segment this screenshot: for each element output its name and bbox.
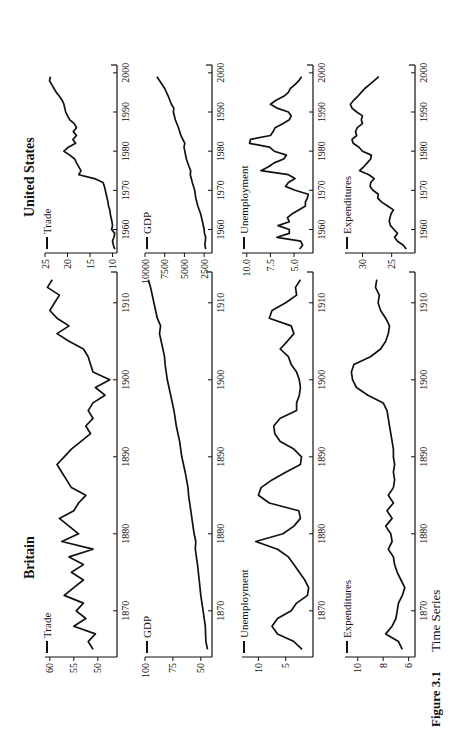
legend-label: Trade — [41, 613, 53, 638]
x-tick-label: 1910 — [418, 293, 429, 313]
series-line — [50, 77, 115, 249]
x-tick-label: 1880 — [418, 524, 429, 544]
x-tick-label: 1990 — [215, 102, 226, 122]
legend-label: Unemployment — [238, 166, 250, 234]
series-line — [256, 280, 309, 650]
y-tick-label: 5000 — [179, 259, 190, 279]
x-tick-label: 1980 — [316, 141, 327, 161]
x-tick-label: 1960 — [120, 220, 131, 240]
series-line — [157, 77, 206, 249]
y-tick-label: 2500 — [199, 259, 210, 279]
y-tick-label: 10.0 — [241, 259, 252, 277]
x-tick-label: 1900 — [418, 370, 429, 390]
series-line — [351, 280, 404, 650]
y-tick-label: 100 — [140, 663, 151, 678]
x-tick-label: 1870 — [316, 601, 327, 621]
x-tick-label: 1890 — [418, 447, 429, 467]
y-tick-label: 10 — [107, 259, 118, 269]
figure-caption: Figure 3.1 Time Series — [428, 590, 444, 727]
x-tick-label: 1870 — [120, 601, 131, 621]
series-line — [148, 280, 207, 650]
x-tick-label: 1980 — [418, 141, 429, 161]
x-tick-label: 1910 — [215, 293, 226, 313]
x-tick-label: 1970 — [316, 180, 327, 200]
x-tick-label: 1880 — [316, 524, 327, 544]
legend-label: GDP — [141, 212, 153, 234]
x-tick-label: 1990 — [120, 102, 131, 122]
panel-united-states-gdp: 1960197019801990200025005000750010000GDP — [140, 63, 227, 284]
x-tick-label: 2000 — [215, 63, 226, 83]
y-tick-label: 30 — [357, 259, 368, 269]
y-tick-label: 5.0 — [289, 259, 300, 272]
x-tick-label: 1960 — [418, 220, 429, 240]
y-tick-label: 7500 — [159, 259, 170, 279]
series-line — [250, 77, 309, 249]
y-tick-label: 10 — [352, 663, 363, 673]
y-tick-label: 50 — [92, 663, 103, 673]
x-tick-label: 1900 — [120, 370, 131, 390]
rotated-book-page: Britain United States 187018801890190019… — [0, 0, 466, 747]
series-line — [350, 77, 406, 249]
y-tick-label: 5 — [280, 663, 291, 668]
y-tick-label: 6 — [403, 663, 414, 668]
x-tick-label: 1880 — [120, 524, 131, 544]
y-tick-label: 10 — [253, 663, 264, 673]
panel-united-states-unemployment: 196019701980199020005.07.510.0Unemployme… — [238, 63, 327, 277]
legend-label: Unemployment — [238, 570, 250, 638]
x-tick-label: 2000 — [120, 63, 131, 83]
x-tick-label: 1970 — [215, 180, 226, 200]
x-tick-label: 1890 — [120, 447, 131, 467]
y-tick-label: 15 — [85, 259, 96, 269]
x-tick-label: 1880 — [215, 524, 226, 544]
panel-britain-gdp: 187018801890190019105075100GDP — [140, 272, 227, 678]
x-tick-label: 1980 — [215, 141, 226, 161]
panel-united-states-expenditures: 196019701980199020002530Expenditures — [341, 63, 429, 269]
series-line — [47, 280, 109, 650]
x-tick-label: 1890 — [215, 447, 226, 467]
x-tick-label: 2000 — [418, 63, 429, 83]
y-tick-label: 50 — [195, 663, 206, 673]
x-tick-label: 1910 — [120, 293, 131, 313]
y-tick-label: 20 — [62, 259, 73, 269]
x-tick-label: 1890 — [316, 447, 327, 467]
y-tick-label: 10000 — [140, 259, 151, 284]
legend-label: Trade — [41, 209, 53, 234]
y-tick-label: 25 — [386, 259, 397, 269]
y-tick-label: 7.5 — [265, 259, 276, 272]
legend-label: GDP — [141, 616, 153, 638]
x-tick-label: 2000 — [316, 63, 327, 83]
x-tick-label: 1900 — [316, 370, 327, 390]
panel-united-states-trade: 1960197019801990200010152025Trade — [40, 63, 132, 269]
y-tick-label: 60 — [44, 663, 55, 673]
y-tick-label: 75 — [167, 663, 178, 673]
panel-britain-unemployment: 18701880189019001910510Unemployment — [238, 272, 327, 673]
time-series-panels: 18701880189019001910505560Trade196019701… — [0, 0, 466, 747]
x-tick-label: 1990 — [316, 102, 327, 122]
legend-label: Expenditures — [341, 176, 353, 234]
x-tick-label: 1960 — [316, 220, 327, 240]
panel-britain-trade: 18701880189019001910505560Trade — [41, 272, 131, 673]
x-tick-label: 1980 — [120, 141, 131, 161]
y-tick-label: 25 — [40, 259, 51, 269]
x-tick-label: 1960 — [215, 220, 226, 240]
x-tick-label: 1900 — [215, 370, 226, 390]
y-tick-label: 55 — [68, 663, 79, 673]
x-tick-label: 1970 — [418, 180, 429, 200]
x-tick-label: 1990 — [418, 102, 429, 122]
x-tick-label: 1970 — [120, 180, 131, 200]
figure-title: Time Series — [428, 590, 443, 652]
y-tick-label: 8 — [378, 663, 389, 668]
figure-number: Figure 3.1 — [428, 671, 443, 727]
x-tick-label: 1910 — [316, 293, 327, 313]
panel-britain-expenditures: 187018801890190019106810Expenditures — [341, 272, 429, 673]
x-tick-label: 1870 — [215, 601, 226, 621]
legend-label: Expenditures — [341, 580, 353, 638]
